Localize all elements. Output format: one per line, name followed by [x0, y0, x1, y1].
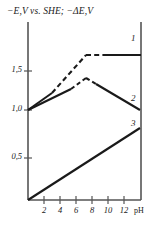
y-tick-label-1-5: 1,5 [2, 64, 22, 74]
series-3-solid-line [28, 128, 140, 200]
series-2-dashed-peak-left [71, 78, 86, 89]
series-2-dashed-peak-right [86, 78, 96, 84]
x-tick-label-12: 12 [116, 205, 132, 215]
x-axis-label: pH [134, 206, 144, 215]
x-tick-label-6: 6 [69, 205, 83, 215]
series-label-2: 2 [131, 93, 136, 103]
x-tick-label-8: 8 [85, 205, 99, 215]
series-label-3: 3 [131, 118, 136, 128]
y-tick-label-0-5: 0,5 [2, 151, 22, 161]
x-tick-label-10: 10 [100, 205, 116, 215]
chart-figure: −E,V vs. SHE; −ΔE,V 1,5 1,0 0,5 2 [0, 0, 160, 228]
plot-area [0, 0, 160, 228]
series-label-1: 1 [131, 33, 136, 43]
y-tick-label-1-0: 1,0 [2, 103, 22, 113]
x-tick-label-4: 4 [53, 205, 67, 215]
series-2-solid-rise [28, 89, 71, 110]
series-1-dashed-rise [52, 55, 86, 93]
x-tick-label-2: 2 [37, 205, 51, 215]
